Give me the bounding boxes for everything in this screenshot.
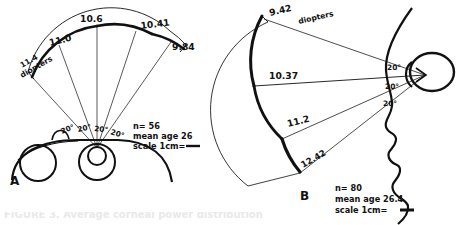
panel-b-reading-0-value: 9.42 (268, 2, 293, 18)
panel-a-stat-n: n= 56 (133, 121, 160, 131)
panel-b-reading-1-value: 10.37 (269, 70, 298, 81)
figure-root: 11.4 diopters 11.0 10.6 10.41 9.84 20° 2… (0, 0, 460, 225)
panel-b-angle-2: 20° (383, 99, 397, 108)
panel-b-stat-n: n= 80 (335, 183, 362, 193)
figure-caption: FIGURE 3. Average corneal power distribu… (4, 212, 263, 220)
panel-b-stat-age: mean age 26.4 (335, 194, 404, 204)
panel-a-angle-0: 20° (59, 122, 76, 136)
panel-a-reading-4-value: 9.84 (172, 41, 195, 52)
panel-b-angle-0: 20° (387, 63, 401, 72)
panel-b-units-label: diopters (297, 9, 334, 26)
panel-b-measured-arc-lower (282, 139, 300, 172)
panel-b-measured-arc-upper (251, 16, 262, 86)
panel-a-reading-1-value: 11.0 (48, 32, 73, 48)
panel-a-stat-scale: scale 1cm= (133, 141, 185, 151)
figure-caption-strip: FIGURE 3. Average corneal power distribu… (0, 212, 460, 225)
panel-b-angle-1: 20° (385, 82, 399, 91)
panel-b-face-profile (386, 8, 412, 224)
panel-b-ray-plus15 (282, 75, 425, 139)
panel-b-measured-arc-mid (254, 86, 282, 139)
panel-a-angle-3: 20° (109, 127, 125, 140)
panel-a-eye-right (79, 144, 115, 180)
panel-b-chord-lower (248, 173, 300, 186)
panel-a-eye-left (20, 145, 56, 181)
panel-a-angle-1: 20° (77, 122, 93, 134)
panel-b: 9.42 diopters 10.37 11.2 12.42 20° 20° 2… (211, 2, 454, 224)
panel-b-reading-3-value: 12.42 (299, 147, 328, 169)
panel-a-stat-age: mean age 26 (133, 131, 193, 141)
panel-a-reading-2-value: 10.6 (80, 13, 103, 24)
panel-b-label: B (300, 189, 309, 203)
panel-a-angle-2: 20° (94, 124, 109, 134)
panel-b-reading-2-value: 11.2 (286, 113, 311, 129)
panel-a-cornea-right (88, 147, 106, 165)
panel-a: 11.4 diopters 11.0 10.6 10.41 9.84 20° 2… (10, 8, 200, 188)
panel-a-ray-minus40 (32, 77, 97, 148)
panel-a-label: A (10, 174, 20, 188)
panel-a-reading-3-value: 10.41 (140, 17, 170, 31)
panel-b-tick-upper (262, 16, 268, 22)
figure-svg: 11.4 diopters 11.0 10.6 10.41 9.84 20° 2… (0, 0, 460, 225)
